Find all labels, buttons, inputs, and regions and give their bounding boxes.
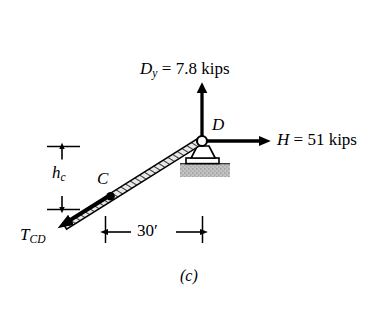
label-hc-symbol: h <box>52 163 61 182</box>
figure-free-body-diagram: Dy = 7.8 kips H = 51 kips D C TCD hc 30′… <box>0 0 390 319</box>
label-height-dimension: hc <box>52 164 66 184</box>
label-dy-symbol: D <box>140 59 152 78</box>
label-reaction-h: H = 51 kips <box>277 131 357 148</box>
figure-caption: (c) <box>180 268 198 284</box>
label-h-unit: kips <box>329 130 357 149</box>
label-tcd-subscript: CD <box>29 233 45 246</box>
label-dy-value: 7.8 <box>176 59 197 78</box>
label-h-symbol: H <box>277 130 289 149</box>
label-reaction-dy: Dy = 7.8 kips <box>140 60 230 80</box>
pin-joint-d <box>197 136 207 146</box>
label-point-d: D <box>212 116 224 133</box>
point-c-marker <box>106 192 115 201</box>
label-h-value: 51 <box>307 130 324 149</box>
label-dy-unit: kips <box>201 59 229 78</box>
label-hc-subscript: c <box>61 171 66 184</box>
label-h-equals: = <box>289 130 307 149</box>
label-span-dimension: 30′ <box>137 222 158 239</box>
label-point-c: C <box>97 170 108 187</box>
ground-hatching <box>180 163 230 177</box>
label-dy-equals: = <box>158 59 176 78</box>
label-cable-tension: TCD <box>20 226 46 246</box>
cable-member-cd <box>63 137 205 229</box>
